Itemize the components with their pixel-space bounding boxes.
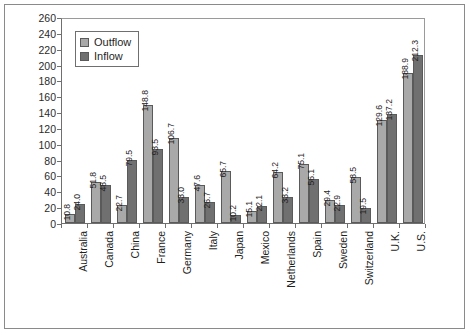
bar-value-label: 129.6: [376, 105, 385, 127]
bar-china-inflow: [127, 160, 137, 223]
x-tick-mark: [347, 224, 348, 228]
x-tick-label: Sweden: [338, 231, 349, 269]
legend-item-inflow: Inflow: [80, 49, 131, 63]
x-tick-mark: [113, 224, 114, 228]
bar-value-label: 33.0: [178, 187, 187, 204]
y-tick-label: 240: [0, 29, 56, 40]
x-tick-mark: [399, 224, 400, 228]
x-tick-label: Mexico: [260, 231, 271, 264]
y-tick-label: 200: [0, 60, 56, 71]
x-tick-mark: [191, 224, 192, 228]
y-tick-label: 180: [0, 76, 56, 87]
bar-value-label: 48.5: [100, 174, 109, 191]
x-tick-label: Japan: [234, 231, 245, 260]
bar-value-label: 212.3: [412, 40, 421, 62]
bar-value-label: 24.0: [74, 194, 83, 211]
bar-value-label: 93.5: [152, 139, 161, 156]
bar-uk-outflow: [377, 120, 387, 223]
y-tick-label: 80: [0, 155, 56, 166]
bar-value-label: 137.2: [386, 99, 395, 121]
x-tick-label: Italy: [208, 231, 219, 250]
y-tick-label: 120: [0, 124, 56, 135]
x-tick-mark: [61, 224, 62, 228]
y-tick-label: 160: [0, 92, 56, 103]
x-tick-label: Canada: [104, 231, 115, 268]
y-tick-label: 100: [0, 140, 56, 151]
bar-value-label: 22.1: [256, 195, 265, 212]
bar-value-label: 22.7: [116, 195, 125, 212]
x-tick-label: Switzerland: [364, 231, 375, 285]
legend-label-inflow: Inflow: [94, 51, 123, 62]
bar-value-label: 64.2: [272, 162, 281, 179]
y-tick-label: 0: [0, 219, 56, 230]
bar-value-label: 148.8: [142, 90, 151, 112]
x-tick-label: U.S.: [416, 231, 427, 251]
bar-uk-inflow: [387, 114, 397, 223]
bar-value-label: 22.9: [334, 195, 343, 212]
y-tick-label: 220: [0, 44, 56, 55]
chart-figure: 020406080100120140160180200220240260 Aus…: [0, 0, 474, 335]
x-tick-label: Netherlands: [286, 231, 297, 288]
bar-value-label: 188.9: [402, 58, 411, 80]
x-tick-mark: [425, 224, 426, 228]
x-tick-mark: [269, 224, 270, 228]
chart-legend: Outflow Inflow: [75, 31, 139, 67]
bar-france-inflow: [153, 149, 163, 223]
bar-value-label: 106.7: [168, 124, 177, 146]
bar-value-label: 79.5: [126, 150, 135, 167]
x-tick-label: France: [156, 231, 167, 264]
bar-value-label: 33.2: [282, 187, 291, 204]
bar-us-outflow: [403, 73, 413, 223]
y-tick-label: 20: [0, 203, 56, 214]
bar-value-label: 10.2: [230, 205, 239, 222]
x-tick-label: Spain: [312, 231, 323, 258]
inflow-swatch-icon: [80, 52, 89, 61]
outflow-swatch-icon: [80, 38, 89, 47]
bar-germany-outflow: [169, 138, 179, 223]
x-tick-mark: [243, 224, 244, 228]
y-tick-label: 40: [0, 187, 56, 198]
x-tick-mark: [295, 224, 296, 228]
x-tick-label: Australia: [78, 231, 89, 272]
bar-value-label: 65.7: [220, 161, 229, 178]
x-tick-mark: [373, 224, 374, 228]
legend-label-outflow: Outflow: [94, 37, 131, 48]
bar-value-label: 47.6: [194, 175, 203, 192]
y-tick-label: 60: [0, 171, 56, 182]
x-tick-mark: [217, 224, 218, 228]
bar-value-label: 29.4: [324, 190, 333, 207]
bar-france-outflow: [143, 105, 153, 223]
bar-value-label: 51.8: [90, 172, 99, 189]
bar-value-label: 58.5: [350, 167, 359, 184]
bar-value-label: 15.1: [246, 201, 255, 218]
bar-value-label: 26.7: [204, 192, 213, 209]
bar-us-inflow: [413, 55, 423, 223]
x-tick-mark: [87, 224, 88, 228]
x-tick-mark: [139, 224, 140, 228]
x-tick-mark: [165, 224, 166, 228]
bar-value-label: 75.1: [298, 153, 307, 170]
y-tick-label: 260: [0, 13, 56, 24]
bar-value-label: 19.5: [360, 197, 369, 214]
x-tick-label: China: [130, 231, 141, 258]
bar-value-label: 10.8: [64, 204, 73, 221]
y-tick-label: 140: [0, 108, 56, 119]
x-tick-label: Germany: [182, 231, 193, 274]
legend-item-outflow: Outflow: [80, 35, 131, 49]
x-tick-label: U.K.: [390, 231, 401, 251]
bar-value-label: 56.1: [308, 168, 317, 185]
x-tick-mark: [321, 224, 322, 228]
